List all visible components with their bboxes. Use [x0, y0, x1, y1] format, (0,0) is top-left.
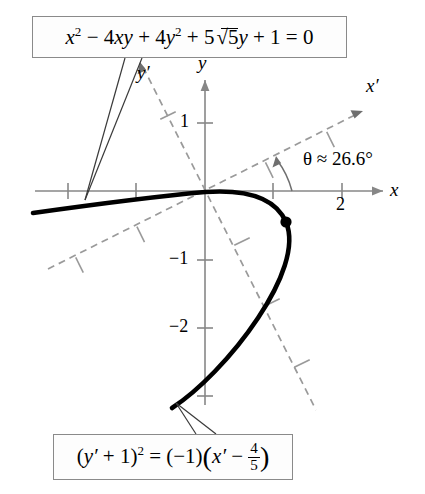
general-equation-text: x2 − 4xy + 4y2 + 5√5y + 1 = 0 — [66, 27, 314, 48]
y-tick-label-neg1: −1 — [169, 248, 188, 269]
theta-angle-arc — [277, 160, 292, 191]
y-tick-label-1: 1 — [180, 111, 189, 132]
parabola-curve — [33, 191, 289, 408]
fraction-four-fifths: 45 — [248, 441, 260, 473]
theta-angle-label: θ ≈ 26.6° — [303, 148, 373, 170]
vertex-point-marker — [280, 216, 291, 227]
equation-callout-bottom: (y′ + 1)2 = (−1)(x′ − 45) — [53, 434, 293, 480]
bottom-callout-leader — [176, 403, 216, 434]
y-axis-label: y — [198, 52, 206, 74]
y-prime-axis-label: y′ — [137, 62, 150, 84]
x-axis-arrowhead — [372, 187, 383, 196]
theta-arc-arrowhead — [273, 156, 282, 167]
primary-axes — [35, 80, 383, 405]
y-tick-label-neg2: −2 — [169, 316, 188, 337]
x-tick-label-2: 2 — [336, 194, 345, 215]
standard-equation-text: (y′ + 1)2 = (−1)(x′ − 45) — [77, 441, 270, 473]
equation-callout-top: x2 − 4xy + 4y2 + 5√5y + 1 = 0 — [32, 16, 347, 58]
rotated-axes — [48, 67, 357, 410]
rotation-of-axes-figure — [0, 0, 425, 494]
x-prime-axis-label: x′ — [366, 75, 379, 97]
square-root-icon: √5 — [214, 27, 238, 48]
y-axis-arrowhead — [201, 80, 210, 91]
top-callout-leader — [85, 58, 142, 200]
x-axis-label: x — [390, 179, 398, 201]
